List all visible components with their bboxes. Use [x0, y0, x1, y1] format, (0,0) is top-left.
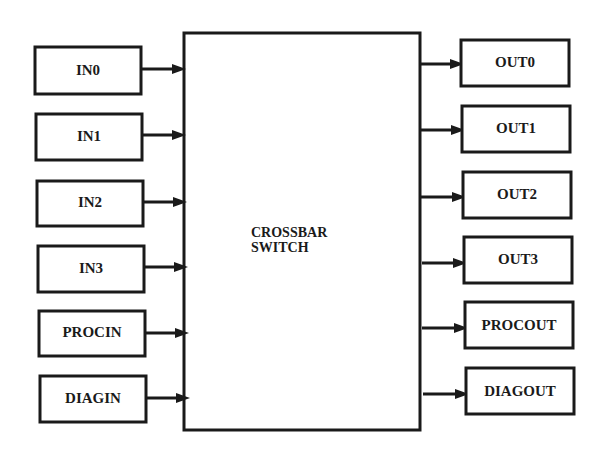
output-out1: OUT1	[421, 106, 570, 152]
input-in0: IN0	[35, 47, 186, 94]
input-label: IN1	[77, 128, 101, 144]
crossbar-switch: CROSSBAR SWITCH	[184, 33, 420, 430]
output-label: DIAGOUT	[484, 383, 556, 399]
output-label: PROCOUT	[482, 317, 557, 333]
input-label: DIAGIN	[65, 390, 121, 406]
input-diagin: DIAGIN	[40, 376, 190, 422]
output-label: OUT3	[498, 251, 538, 267]
input-in2: IN2	[37, 181, 187, 226]
output-label: OUT1	[496, 120, 536, 136]
input-label: PROCIN	[62, 324, 121, 340]
input-label: IN2	[78, 194, 102, 210]
input-in1: IN1	[36, 114, 186, 160]
output-out3: OUT3	[422, 237, 572, 283]
input-procin: PROCIN	[39, 311, 189, 356]
input-label: IN0	[76, 62, 100, 78]
output-label: OUT2	[497, 186, 537, 202]
output-diagout: DIAGOUT	[423, 368, 574, 414]
crossbar-label-line1: CROSSBAR	[251, 225, 328, 240]
output-label: OUT0	[495, 54, 535, 70]
crossbar-diagram: CROSSBAR SWITCH IN0 IN1 IN2 IN3 PROCIN D…	[0, 0, 603, 458]
input-in3: IN3	[38, 246, 188, 292]
input-label: IN3	[79, 260, 103, 276]
output-out2: OUT2	[421, 172, 571, 218]
crossbar-label-line2: SWITCH	[251, 240, 309, 255]
output-procout: PROCOUT	[422, 302, 573, 348]
output-out0: OUT0	[420, 40, 569, 86]
